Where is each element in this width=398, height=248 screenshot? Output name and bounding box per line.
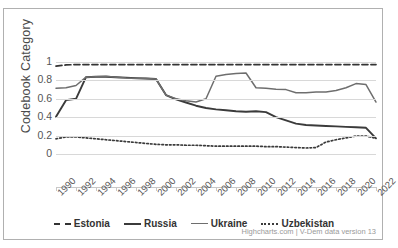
legend-key-icon bbox=[124, 223, 141, 225]
legend-item-russia[interactable]: Russia bbox=[124, 217, 177, 229]
gridline bbox=[56, 136, 376, 137]
x-axis-tick-mark bbox=[356, 187, 357, 191]
x-axis-tick-mark bbox=[156, 187, 157, 191]
gridline bbox=[56, 154, 376, 155]
x-axis-tick-mark bbox=[296, 187, 297, 191]
series-line-uzbekistan bbox=[56, 136, 376, 148]
x-axis-tick-mark bbox=[216, 187, 217, 191]
series-line-estonia bbox=[56, 65, 376, 67]
legend-key-icon bbox=[261, 223, 278, 225]
x-axis-tick-label: 2022 bbox=[375, 175, 398, 198]
x-axis-tick-mark bbox=[256, 187, 257, 191]
legend-item-ukraine[interactable]: Ukraine bbox=[191, 217, 248, 229]
plot-area bbox=[56, 62, 376, 154]
x-axis-tick-mark bbox=[376, 187, 377, 191]
series-layer bbox=[56, 62, 376, 154]
y-axis-tick-label: 0 bbox=[12, 147, 52, 159]
legend-key-icon bbox=[54, 223, 71, 225]
y-axis-tick-labels: 00.20.40.60.81 bbox=[12, 62, 52, 154]
gridline bbox=[56, 117, 376, 118]
x-axis-tick-mark bbox=[116, 187, 117, 191]
x-axis-tick-mark bbox=[236, 187, 237, 191]
y-axis-tick-label: 0.6 bbox=[12, 92, 52, 104]
chart-frame: Codebook Category 00.20.40.60.81 1990199… bbox=[3, 8, 383, 240]
x-axis-tick-mark bbox=[56, 187, 57, 191]
x-axis-tick-mark bbox=[336, 187, 337, 191]
credits-label: Highcharts.com | V-Dem data version 13 bbox=[241, 227, 376, 236]
x-axis-tick-mark bbox=[96, 187, 97, 191]
x-axis-tick-mark bbox=[76, 187, 77, 191]
series-line-russia bbox=[56, 77, 376, 139]
x-axis-tick-mark bbox=[276, 187, 277, 191]
x-axis-tick-mark bbox=[316, 187, 317, 191]
x-axis-tick-mark bbox=[196, 187, 197, 191]
x-axis-tick-mark bbox=[136, 187, 137, 191]
gridline bbox=[56, 99, 376, 100]
y-axis-tick-label: 0.2 bbox=[12, 129, 52, 141]
gridline bbox=[56, 62, 376, 63]
y-axis-tick-label: 0.4 bbox=[12, 110, 52, 122]
y-axis-tick-label: 0.8 bbox=[12, 73, 52, 85]
legend-label: Estonia bbox=[74, 218, 110, 229]
legend-item-estonia[interactable]: Estonia bbox=[54, 217, 110, 229]
legend-key-icon bbox=[191, 223, 208, 224]
legend-label: Russia bbox=[144, 218, 177, 229]
x-axis-tick-mark bbox=[176, 187, 177, 191]
y-axis-tick-label: 1 bbox=[12, 55, 52, 67]
gridline bbox=[56, 80, 376, 81]
